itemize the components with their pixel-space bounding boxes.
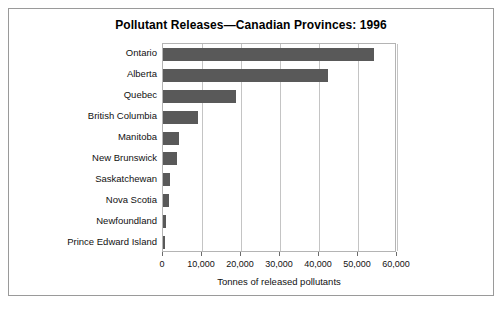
bar — [163, 111, 198, 124]
x-tick-mark — [162, 252, 163, 256]
bar — [163, 152, 177, 165]
bar — [163, 173, 170, 186]
category-label: Nova Scotia — [0, 194, 157, 205]
chart-title: Pollutant Releases—Canadian Provinces: 1… — [0, 18, 502, 32]
bar — [163, 132, 179, 145]
bar — [163, 48, 374, 61]
category-label: Quebec — [0, 89, 157, 100]
bar-row — [163, 190, 395, 211]
x-tick-label: 40,000 — [304, 259, 332, 269]
category-label: British Columbia — [0, 110, 157, 121]
category-label: Prince Edward Island — [0, 236, 157, 247]
category-label: Ontario — [0, 47, 157, 58]
x-tick-label: 0 — [159, 259, 164, 269]
bar — [163, 194, 169, 207]
bar-row — [163, 65, 395, 86]
x-axis-title: Tonnes of released pollutants — [162, 276, 396, 287]
bar-row — [163, 44, 395, 65]
bar-row — [163, 149, 395, 170]
x-tick-mark — [396, 252, 397, 256]
bar-row — [163, 86, 395, 107]
x-tick-label: 50,000 — [343, 259, 371, 269]
bar-row — [163, 107, 395, 128]
plot-area — [162, 43, 396, 252]
category-label: Saskatchewan — [0, 173, 157, 184]
x-tick-label: 60,000 — [382, 259, 410, 269]
bar — [163, 69, 328, 82]
x-tick-label: 30,000 — [265, 259, 293, 269]
bar-row — [163, 232, 395, 253]
x-tick-mark — [357, 252, 358, 256]
bar-row — [163, 128, 395, 149]
category-label: Manitoba — [0, 131, 157, 142]
bar-row — [163, 211, 395, 232]
x-tick-mark — [318, 252, 319, 256]
category-label: Newfoundland — [0, 215, 157, 226]
bar — [163, 215, 166, 228]
category-label: New Brunswick — [0, 152, 157, 163]
category-label: Alberta — [0, 68, 157, 79]
x-tick-mark — [279, 252, 280, 256]
x-tick-mark — [240, 252, 241, 256]
bar — [163, 236, 165, 249]
bar — [163, 90, 236, 103]
gridline — [397, 44, 398, 251]
x-tick-mark — [201, 252, 202, 256]
chart-figure: Pollutant Releases—Canadian Provinces: 1… — [0, 0, 502, 312]
x-tick-label: 20,000 — [226, 259, 254, 269]
bar-row — [163, 169, 395, 190]
x-tick-label: 10,000 — [187, 259, 215, 269]
